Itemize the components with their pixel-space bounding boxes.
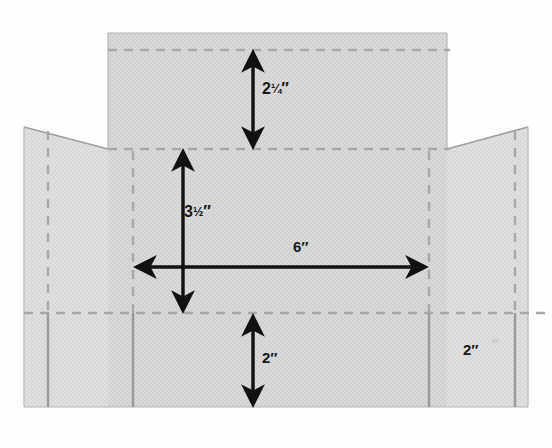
dimension-label-top-flap: 2¼″ — [262, 80, 289, 98]
dimension-label-top-flap-unit: ″ — [281, 80, 289, 97]
dimension-label-top-flap-whole: 2 — [262, 80, 271, 97]
dimension-label-body-height-unit: ″ — [203, 203, 211, 220]
dimension-label-bottom-flap: 2″ — [262, 349, 278, 366]
panel-main-body — [108, 149, 447, 407]
dimension-label-body-width: 6″ — [293, 238, 309, 255]
scan-speck-artifact — [492, 339, 498, 343]
dimension-label-body-height: 3½″ — [184, 203, 211, 221]
dimension-label-body-height-fraction: ½ — [193, 205, 203, 219]
panel-left-wing — [24, 127, 108, 407]
template-drawing — [0, 0, 552, 448]
dimension-label-body-width-unit: ″ — [301, 238, 308, 255]
dimension-label-top-flap-fraction: ¼ — [271, 82, 281, 96]
dimension-label-side-flap-unit: ″ — [471, 341, 478, 358]
dimension-label-side-flap: 2″ — [463, 341, 479, 358]
dimension-label-body-height-whole: 3 — [184, 203, 193, 220]
box-template-diagram: 2¼″ 3½″ 6″ 2″ 2″ — [0, 0, 552, 448]
dimension-label-bottom-flap-unit: ″ — [270, 349, 277, 366]
